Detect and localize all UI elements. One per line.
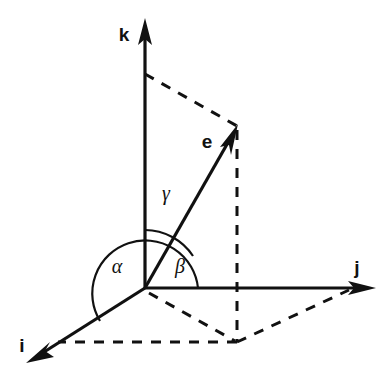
axis-i-label: i bbox=[19, 335, 24, 356]
axis-k-group: k bbox=[119, 18, 152, 288]
vector-direction-angles-diagram: k j i e α β γ bbox=[0, 0, 388, 378]
axis-k-label: k bbox=[119, 24, 130, 45]
dashed-k-axis-to-vector-tip bbox=[145, 74, 237, 126]
angle-gamma-label: γ bbox=[162, 182, 171, 205]
axis-i-arrowhead bbox=[26, 342, 54, 363]
axis-i-group: i bbox=[19, 288, 145, 363]
axis-j-label: j bbox=[353, 257, 359, 278]
projection-lines-group bbox=[58, 74, 349, 342]
dashed-ground-to-j-axis bbox=[237, 290, 349, 342]
diagram-canvas: k j i e α β γ bbox=[0, 0, 388, 378]
vector-e-label: e bbox=[202, 131, 213, 152]
dashed-origin-to-ground-projection bbox=[149, 293, 235, 341]
angle-beta-label: β bbox=[174, 255, 185, 278]
vector-e-line bbox=[145, 139, 230, 288]
vector-e-group: e bbox=[145, 124, 238, 288]
angle-alpha-label: α bbox=[112, 255, 123, 277]
